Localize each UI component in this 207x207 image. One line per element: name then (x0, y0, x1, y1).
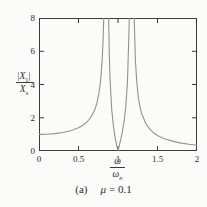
caption-index: (a) (75, 183, 87, 195)
x-tick-label: 0.5 (67, 154, 91, 164)
x-axis-fraction-bar (110, 167, 125, 168)
plot-area (39, 18, 197, 151)
y-tick-label: 2 (21, 113, 35, 123)
caption-value: = 0.1 (109, 183, 132, 195)
caption-mu-symbol: μ (100, 183, 106, 195)
x-tick-label: 2 (185, 154, 207, 164)
figure-caption: (a)μ= 0.1 (0, 183, 207, 196)
x-tick-label: 1 (106, 154, 130, 164)
plot-frame (40, 19, 197, 151)
response-curve (39, 18, 197, 151)
vibration-absorber-figure: |X1| Xs ω ωn (a)μ= 0.1 00.511.5202468 (0, 0, 207, 207)
x-axis-label-denominator: ωn (104, 169, 131, 179)
y-tick-label: 4 (21, 80, 35, 90)
x-tick-label: 1.5 (146, 154, 170, 164)
y-tick-label: 6 (21, 46, 35, 56)
y-tick-label: 0 (21, 146, 35, 156)
y-tick-label: 8 (21, 13, 35, 23)
